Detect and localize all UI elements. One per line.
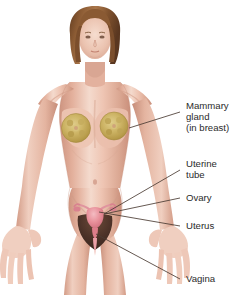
vaginal-opening [94,250,96,256]
label-mammary-gland-line-3: (in breast) [186,122,229,133]
head [70,6,121,64]
face [79,17,111,59]
label-uterine-tube: Uterine tube [186,158,217,180]
label-mammary-gland-line-1: Mammary [186,100,229,111]
body-figure [0,6,190,295]
anatomical-figure: Mammary gland (in breast) Uterine tube O… [0,0,236,295]
left-hand [0,226,41,284]
sternum-shadow [94,100,95,148]
right-arm [132,98,174,230]
label-uterine-tube-line-2: tube [186,169,217,180]
navel [93,179,97,185]
right-eye [99,36,104,39]
right-hand [149,226,190,284]
left-eye [85,36,90,39]
left-arm [16,98,58,230]
label-ovary: Ovary [186,192,212,203]
label-mammary-gland: Mammary gland (in breast) [186,100,229,134]
label-vagina: Vagina [186,273,215,284]
label-ovary-line-1: Ovary [186,192,212,203]
ovary-left [73,206,80,211]
label-vagina-line-1: Vagina [186,273,215,284]
anatomy-illustration [0,0,236,295]
mammary-gland-right [100,112,128,140]
label-uterus-line-1: Uterus [186,220,214,231]
label-uterus: Uterus [186,220,214,231]
label-mammary-gland-line-2: gland [186,111,229,122]
label-uterine-tube-line-1: Uterine [186,158,217,169]
vagina [93,238,97,252]
mammary-gland-left [62,114,91,143]
